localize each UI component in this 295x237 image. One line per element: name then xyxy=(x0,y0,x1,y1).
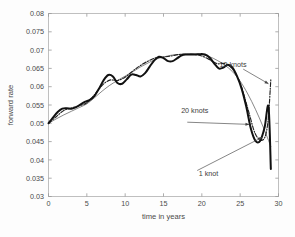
y-tick-label: 0.035 xyxy=(26,174,44,183)
x-tick-label: 10 xyxy=(121,199,129,208)
y-tick-label: 0.04 xyxy=(30,156,44,165)
y-tick-label: 0.05 xyxy=(30,119,44,128)
x-tick-label: 20 xyxy=(198,199,206,208)
x-tick-label: 5 xyxy=(85,199,89,208)
y-tick-label: 0.03 xyxy=(30,192,44,201)
y-tick-label: 0.07 xyxy=(30,46,44,55)
forward-rate-line-chart: 0510152025300.030.0350.040.0450.050.0550… xyxy=(0,0,295,237)
y-tick-label: 0.045 xyxy=(26,137,44,146)
x-axis-title: time in years xyxy=(142,212,185,221)
annotation-1-knot: 1 knot xyxy=(199,169,219,178)
annotation-20-knots: 20 knots xyxy=(181,106,209,115)
x-tick-label: 0 xyxy=(47,199,51,208)
y-tick-label: 0.08 xyxy=(30,9,44,18)
y-tick-label: 0.055 xyxy=(26,101,44,110)
y-tick-label: 0.075 xyxy=(26,27,44,36)
y-tick-label: 0.06 xyxy=(30,82,44,91)
chart-figure: 0510152025300.030.0350.040.0450.050.0550… xyxy=(0,0,295,237)
x-tick-label: 30 xyxy=(275,199,283,208)
annotation-10-knots: 10 knots xyxy=(219,60,247,69)
y-axis-title: forward rate xyxy=(6,85,15,126)
x-tick-label: 25 xyxy=(236,199,244,208)
plot-frame xyxy=(49,14,279,197)
y-tick-label: 0.065 xyxy=(26,64,44,73)
x-tick-label: 15 xyxy=(160,199,168,208)
